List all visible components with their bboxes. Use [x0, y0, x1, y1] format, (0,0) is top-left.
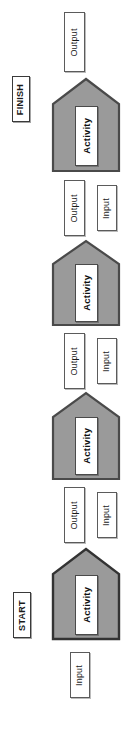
input-box-initial-label: Input: [76, 664, 85, 685]
terminal-finish-label: FINISH: [17, 83, 26, 114]
output-box-final[interactable]: Output: [64, 12, 85, 72]
activity-4-label: Activity: [82, 118, 92, 154]
input-box-initial[interactable]: Input: [70, 652, 90, 698]
activity-2-label: Activity: [82, 428, 92, 464]
input-box-3[interactable]: Input: [97, 185, 117, 231]
diagram-canvas: Output FINISH Activity Output Input Acti…: [0, 0, 132, 730]
activity-3-label: Activity: [82, 275, 92, 311]
input-box-2[interactable]: Input: [97, 338, 117, 384]
input-box-1[interactable]: Input: [97, 492, 117, 538]
activity-shape-4[interactable]: Activity: [50, 76, 122, 174]
output-box-1[interactable]: Output: [64, 487, 85, 543]
output-box-3[interactable]: Output: [64, 180, 85, 236]
output-box-1-label: Output: [70, 501, 79, 529]
activity-shape-1[interactable]: Activity: [50, 546, 122, 642]
activity-1-label: Activity: [82, 587, 92, 623]
activity-3-inner-box: Activity: [75, 264, 98, 322]
activity-4-inner-box: Activity: [75, 106, 98, 166]
input-box-2-label: Input: [103, 350, 112, 371]
terminal-finish[interactable]: FINISH: [12, 76, 30, 122]
terminal-start-label: START: [18, 600, 27, 631]
input-box-3-label: Input: [103, 197, 112, 218]
output-box-2[interactable]: Output: [64, 333, 85, 389]
activity-shape-2[interactable]: Activity: [50, 390, 122, 482]
output-box-3-label: Output: [70, 194, 79, 222]
activity-2-inner-box: Activity: [75, 417, 98, 475]
input-box-1-label: Input: [103, 504, 112, 525]
activity-shape-3[interactable]: Activity: [50, 238, 122, 328]
terminal-start[interactable]: START: [13, 592, 31, 638]
output-box-2-label: Output: [70, 347, 79, 375]
output-box-final-label: Output: [70, 28, 79, 56]
activity-1-inner-box: Activity: [75, 575, 98, 635]
